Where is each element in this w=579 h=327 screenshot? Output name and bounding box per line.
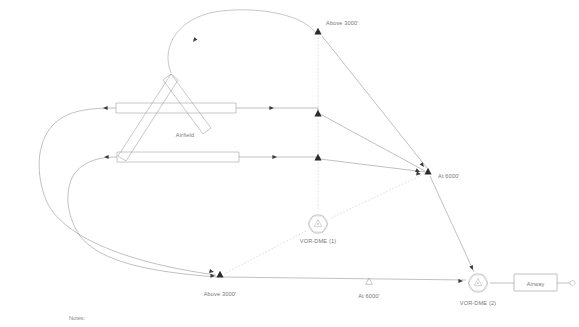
route-upper-to-at6000	[320, 114, 425, 171]
label-at-6000-right: At 6000'	[438, 173, 460, 179]
airfield-runways	[116, 74, 239, 162]
arrowhead-vor2-descent	[469, 265, 475, 271]
waypoint-symbols	[216, 28, 431, 285]
arrowhead-above3000-bottom-a	[209, 269, 214, 274]
waypoint-mid-upper[interactable]	[314, 110, 321, 117]
diagram-canvas: Airfield	[0, 0, 579, 327]
airfield-label: Airfield	[176, 132, 194, 138]
label-at-6000-bottom: At 6000'	[358, 293, 380, 299]
arrowhead-loop-upper-in	[103, 106, 108, 110]
waypoint-at-6000-right[interactable]	[424, 168, 431, 175]
runway-lower	[117, 152, 239, 162]
radial-vor1-to-above3000	[224, 231, 306, 274]
route-bottom-airway	[222, 277, 466, 280]
route-upper-departure	[236, 108, 318, 114]
route-top-arc	[168, 10, 316, 73]
notes-label: Notes:	[69, 315, 86, 321]
airway-label: Airway	[527, 281, 545, 287]
label-vor-dme-1: VOR-DME (1)	[300, 238, 336, 244]
route-arrowheads	[103, 37, 475, 283]
route-left-loop-lower	[68, 157, 217, 277]
waypoint-labels: Above 3000' At 6000' Above 3000' At 6000…	[204, 20, 497, 306]
arrowhead-at6000-c	[416, 171, 421, 176]
waypoint-above-3000-top[interactable]	[314, 28, 321, 35]
airway-box-group[interactable]: Airway	[514, 274, 575, 291]
runway-upper	[116, 103, 236, 113]
arrowhead-loop-lower-in	[104, 155, 109, 159]
arrowhead-upper-departure	[269, 106, 274, 110]
label-vor-dme-2: VOR-DME (2)	[460, 300, 496, 306]
arrowhead-lower-departure	[272, 155, 277, 159]
sid-departure-diagram: Airfield	[0, 0, 579, 327]
navaid-vor-dme-2[interactable]	[469, 274, 488, 293]
waypoint-above-3000-bottom[interactable]	[216, 271, 223, 278]
route-lower-to-at6000	[320, 159, 425, 172]
radial-vor1-to-at6000	[331, 174, 424, 218]
route-lower-departure	[239, 157, 318, 158]
arrowhead-into-vor2	[458, 279, 463, 283]
navaid-vor-dme-1[interactable]	[309, 215, 328, 234]
arrowhead-arc	[191, 37, 197, 43]
label-above-3000-top: Above 3000'	[326, 20, 359, 26]
runway-diagonal-lower	[118, 74, 178, 161]
route-top-to-at6000	[322, 36, 427, 168]
route-at6000-to-vor2	[430, 176, 474, 272]
label-above-3000-bottom: Above 3000'	[204, 291, 237, 297]
runway-diagonal	[163, 74, 211, 134]
airway-endpoint-icon	[570, 280, 575, 285]
